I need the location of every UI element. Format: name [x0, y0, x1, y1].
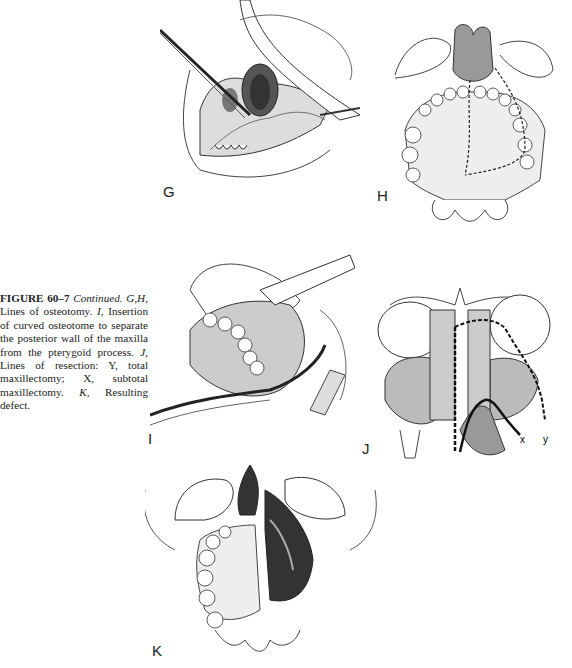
coronal-section-drawing: x y [360, 280, 572, 460]
caption-part: K [79, 386, 86, 398]
line-label-y: y [543, 434, 548, 445]
panel-j-illustration: x y [360, 280, 572, 460]
curved-osteotome-drawing [150, 250, 355, 430]
line-label-x: x [520, 434, 525, 445]
resulting-defect-drawing [145, 460, 380, 660]
panel-label-j: J [362, 440, 370, 457]
surgical-osteotomy-drawing [160, 0, 360, 190]
panel-label-k: K [152, 642, 162, 659]
panel-label-h: H [377, 187, 388, 204]
figure-continued: Continued. [73, 292, 122, 304]
panel-label-g: G [163, 183, 175, 200]
palatal-view-drawing [385, 0, 572, 230]
panel-i-illustration [150, 250, 355, 430]
panel-k-illustration [145, 460, 380, 660]
figure-number: FIGURE 60–7 [0, 292, 70, 304]
panel-h-illustration [385, 0, 572, 230]
figure-caption: FIGURE 60–7 Continued. G,H, Lines of ost… [0, 292, 148, 413]
caption-part: G,H [126, 292, 145, 304]
panel-g-illustration [160, 0, 360, 190]
panel-label-i: I [148, 430, 152, 447]
